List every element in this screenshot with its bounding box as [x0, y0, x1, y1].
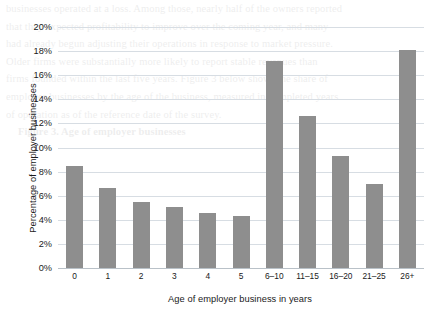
bar-series	[58, 27, 424, 268]
x-axis-tick-label: 0	[72, 271, 77, 281]
bar	[299, 116, 316, 268]
y-axis-tick-label: 18%	[20, 46, 52, 56]
y-axis-tick-labels: 0%2%4%6%8%10%12%14%16%18%20%	[20, 27, 52, 268]
bar	[332, 156, 349, 268]
x-axis-tick-label: 5	[239, 271, 244, 281]
x-axis-title: Age of employer business in years	[50, 294, 430, 304]
x-axis-tick-label: 6–10	[265, 271, 284, 281]
y-axis-tick-label: 8%	[20, 167, 52, 177]
bar	[99, 188, 116, 268]
x-axis-tick-label: 1	[106, 271, 111, 281]
bar	[233, 216, 250, 268]
y-axis-tick-label: 4%	[20, 215, 52, 225]
y-axis-tick-label: 2%	[20, 239, 52, 249]
bar	[399, 50, 416, 268]
bar-chart: Percentage of employer businesses 0%2%4%…	[0, 0, 430, 322]
x-axis-tick-label: 11–15	[296, 271, 319, 281]
bar	[66, 166, 83, 268]
bar	[366, 184, 383, 268]
bar	[133, 202, 150, 268]
bar	[199, 213, 216, 268]
x-axis-tick-label: 26+	[400, 271, 414, 281]
y-axis-tick-label: 10%	[20, 143, 52, 153]
y-axis-tick-label: 12%	[20, 118, 52, 128]
x-axis-tick-label: 21–25	[362, 271, 385, 281]
x-axis-tick-labels: 0123456–1011–1516–2021–2526+	[58, 271, 424, 285]
x-axis-tick-label: 2	[139, 271, 144, 281]
x-axis-tick-label: 4	[205, 271, 210, 281]
y-axis-tick-label: 20%	[20, 22, 52, 32]
bar	[166, 207, 183, 268]
y-axis-tick-label: 14%	[20, 94, 52, 104]
x-axis-tick-label: 16–20	[329, 271, 352, 281]
gridline	[58, 268, 424, 269]
y-axis-tick-label: 6%	[20, 191, 52, 201]
bar	[266, 61, 283, 268]
y-axis-tick-label: 0%	[20, 263, 52, 273]
x-axis-tick-label: 3	[172, 271, 177, 281]
y-axis-tick-label: 16%	[20, 70, 52, 80]
